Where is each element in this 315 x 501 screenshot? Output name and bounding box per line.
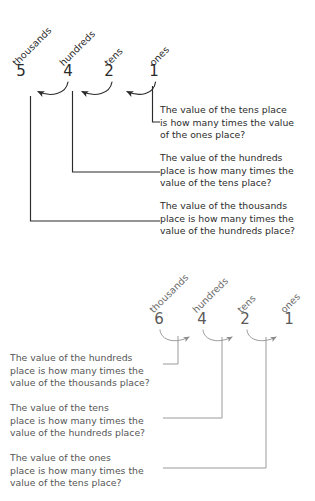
top-digit-tens: 2 <box>101 62 117 80</box>
top-question-2: The value of the hundreds place is how m… <box>160 152 310 190</box>
top-connector-2 <box>73 91 161 172</box>
bottom-question-1: The value of the hundreds place is how m… <box>10 352 162 390</box>
top-digit-ones: 1 <box>146 62 162 80</box>
top-arc-group <box>38 82 156 94</box>
bottom-arc-tens-to-ones <box>247 330 276 341</box>
bottom-digit-tens: 2 <box>237 310 253 328</box>
top-connector-3 <box>31 96 161 221</box>
bottom-connector-group <box>163 336 266 468</box>
top-digit-hundreds: 4 <box>60 62 76 80</box>
top-question-1: The value of the tens place is how many … <box>160 104 310 142</box>
bottom-connector-3 <box>163 337 266 468</box>
bottom-connector-2 <box>163 337 222 418</box>
top-connector-group <box>31 86 161 221</box>
bottom-place-label-thousands: thousands <box>147 272 190 315</box>
top-connector-1 <box>153 86 161 122</box>
top-digit-thousands: 5 <box>13 62 29 80</box>
bottom-question-2: The value of the tens place is how many … <box>10 402 162 440</box>
bottom-connector-1 <box>163 336 178 364</box>
bottom-question-3: The value of the ones place is how many … <box>10 452 162 490</box>
top-arc-ones-to-tens <box>127 82 156 94</box>
figure-canvas: thousands hundreds tens ones 5 4 2 1 The… <box>0 0 315 501</box>
bottom-arc-group <box>160 330 276 341</box>
bottom-arc-thousands-to-hundreds <box>160 330 189 341</box>
bottom-digit-ones: 1 <box>281 310 297 328</box>
bottom-digit-thousands: 6 <box>151 310 167 328</box>
top-question-3: The value of the thousands place is how … <box>160 200 310 238</box>
bottom-digit-hundreds: 4 <box>194 310 210 328</box>
bottom-arc-hundreds-to-tens <box>203 330 232 341</box>
bottom-place-label-hundreds: hundreds <box>190 275 230 315</box>
top-arc-tens-to-hundreds <box>82 82 112 94</box>
top-arc-hundreds-to-thousands <box>38 82 68 94</box>
